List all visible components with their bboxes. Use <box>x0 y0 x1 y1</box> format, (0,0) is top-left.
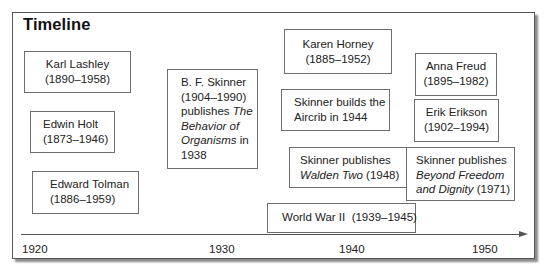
event-box-karen-horney: Karen Horney (1885–1952) <box>284 29 392 74</box>
text-plain: (1971) <box>474 183 510 195</box>
book-title-part: The <box>233 105 253 117</box>
text-plain: publishes <box>181 105 233 117</box>
event-text: Beyond Freedom <box>416 168 514 183</box>
timeline-title: Timeline <box>23 15 90 34</box>
event-text: Skinner builds the <box>294 95 389 110</box>
event-box-skinner-aircrib: Skinner builds the Aircrib in 1944 <box>281 89 390 131</box>
event-name: B. F. Skinner <box>181 75 257 90</box>
event-text: Skinner publishes <box>300 153 411 168</box>
event-name: Erik Erikson <box>415 105 498 120</box>
book-title-part: and Dignity <box>416 183 474 195</box>
book-title-part: Beyond Freedom <box>416 169 504 181</box>
text-plain: (1948) <box>363 169 399 181</box>
axis-arrow-icon <box>519 231 528 237</box>
event-box-walden-two: Skinner publishes Walden Two (1948) <box>289 147 412 188</box>
event-dates: (1904–1990) <box>181 90 257 105</box>
event-box-edward-tolman: Edward Tolman (1886–1959) <box>32 171 139 214</box>
event-name: Edward Tolman <box>50 177 138 192</box>
event-box-edwin-holt: Edwin Holt (1873–1946) <box>30 111 115 153</box>
event-name: Anna Freud <box>416 59 496 74</box>
event-dates: (1886–1959) <box>50 192 138 207</box>
event-text: Aircrib in 1944 <box>294 110 389 125</box>
event-dates: (1890–1958) <box>25 72 130 87</box>
event-box-erik-erikson: Erik Erikson (1902–1994) <box>414 99 499 142</box>
book-title-part: Behavior of <box>181 120 239 132</box>
axis-tick-label-1940: 1940 <box>339 243 365 255</box>
event-box-world-war-ii: World War II (1939–1945) <box>267 203 416 233</box>
timeline-axis-line <box>21 234 521 235</box>
event-name: Karl Lashley <box>25 57 130 72</box>
event-box-anna-freud: Anna Freud (1895–1982) <box>415 53 497 96</box>
event-box-karl-lashley: Karl Lashley (1890–1958) <box>24 51 131 93</box>
text-plain: in <box>237 134 249 146</box>
axis-tick-label-1920: 1920 <box>22 243 48 255</box>
event-text: Skinner publishes <box>416 153 514 168</box>
book-title-part: Organisms <box>181 134 237 146</box>
event-text: publishes The <box>181 104 257 119</box>
event-text: Behavior of <box>181 119 257 134</box>
axis-tick-label-1950: 1950 <box>472 243 498 255</box>
event-box-beyond-freedom-and-dignity: Skinner publishes Beyond Freedom and Dig… <box>406 147 515 201</box>
event-dates: (1895–1982) <box>416 74 496 89</box>
event-box-skinner-behavior-of-organisms: B. F. Skinner (1904–1990) publishes The … <box>167 69 258 169</box>
event-text: Walden Two (1948) <box>300 168 411 183</box>
event-text: and Dignity (1971) <box>416 182 514 197</box>
event-dates: (1885–1952) <box>285 52 391 67</box>
event-name: Edwin Holt <box>43 117 114 132</box>
event-text: Organisms in <box>181 133 257 148</box>
axis-tick-label-1930: 1930 <box>209 243 235 255</box>
event-year: 1938 <box>181 148 257 163</box>
event-dates: (1873–1946) <box>43 132 114 147</box>
event-text: World War II (1939–1945) <box>282 210 415 225</box>
book-title: Walden Two <box>300 169 363 181</box>
event-name: Karen Horney <box>285 37 391 52</box>
event-dates: (1902–1994) <box>415 120 498 135</box>
